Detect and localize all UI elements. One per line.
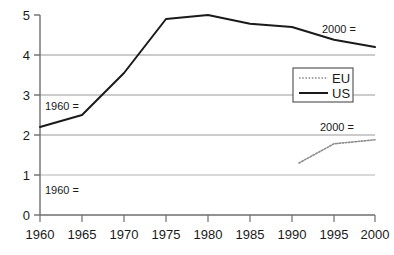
annotation-us-2000: 2000 = [322,24,356,35]
y-axis-label-0: 0 [16,209,30,222]
x-axis-label-1960: 1960 [20,228,60,241]
y-axis-label-3: 3 [16,89,30,102]
y-axis-label-5: 5 [16,9,30,22]
x-axis-label-1985: 1985 [230,228,270,241]
y-axis-label-4: 4 [16,49,30,62]
y-axis [34,15,40,215]
x-axis-label-1980: 1980 [188,228,228,241]
series-line-eu [299,140,375,163]
legend-label-us: US [332,87,350,100]
annotation-us-1960: 1960 = [45,101,79,112]
x-axis [40,215,375,222]
y-axis-label-1: 1 [16,169,30,182]
x-axis-label-1990: 1990 [272,228,312,241]
legend-label-eu: EU [332,72,350,85]
x-axis-label-1965: 1965 [62,228,102,241]
annotation-eu-2000: 2000 = [320,122,354,133]
y-axis-label-2: 2 [16,129,30,142]
x-axis-label-1970: 1970 [104,228,144,241]
x-axis-label-1975: 1975 [146,228,186,241]
x-axis-label-1995: 1995 [314,228,354,241]
annotation-eu-1960: 1960 = [45,185,79,196]
x-axis-label-2000: 2000 [355,228,394,241]
